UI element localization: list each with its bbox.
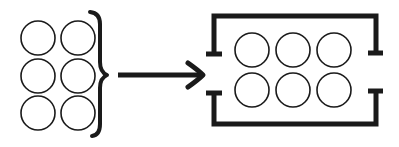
- circle: [317, 73, 351, 107]
- circle: [61, 59, 95, 93]
- circle: [21, 59, 55, 93]
- circle: [61, 96, 95, 130]
- circle: [235, 33, 269, 67]
- circle: [276, 73, 310, 107]
- circle: [61, 21, 95, 55]
- circle: [276, 33, 310, 67]
- circle: [21, 96, 55, 130]
- container-top-bracket: [206, 16, 383, 54]
- right-arrow-icon: [118, 63, 203, 87]
- circle: [235, 73, 269, 107]
- circle: [21, 21, 55, 55]
- left-circle-group: [21, 21, 95, 130]
- diagram-canvas: [0, 0, 399, 147]
- right-circle-group: [235, 33, 351, 107]
- circle: [317, 33, 351, 67]
